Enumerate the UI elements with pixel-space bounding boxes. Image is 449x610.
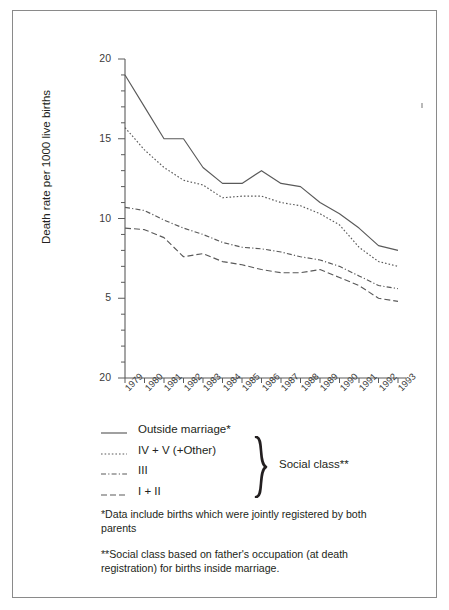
legend-item-label: III xyxy=(138,464,148,476)
chart-canvas xyxy=(13,11,438,411)
series-line xyxy=(125,128,398,267)
legend-line-swatch xyxy=(101,465,127,475)
brace-icon xyxy=(253,436,275,498)
legend-line-swatch xyxy=(101,445,127,455)
legend-item-label: Outside marriage* xyxy=(138,423,231,435)
y-tick-label: 5 xyxy=(81,291,111,303)
series-line xyxy=(125,75,398,250)
legend-line-swatch xyxy=(101,424,127,434)
legend-item-label: IV + V (+Other) xyxy=(138,444,216,456)
footnote-data-note: *Data include births which were jointly … xyxy=(101,507,401,535)
series-line xyxy=(125,228,398,301)
y-tick-label: 15 xyxy=(81,132,111,144)
series-line xyxy=(125,207,398,288)
legend-item-label: I + II xyxy=(138,485,161,497)
legend-group-label: Social class** xyxy=(279,458,349,470)
page-speck xyxy=(421,103,423,108)
chart-legend: Outside marriage*IV + V (+Other)IIII + I… xyxy=(101,419,431,501)
chart-series xyxy=(125,75,398,301)
plot-area: Death rate per 1000 live births 51015202… xyxy=(13,11,438,411)
legend-line-swatch xyxy=(101,486,127,496)
y-axis-bottom-label: 20 xyxy=(81,371,111,383)
y-tick-label: 20 xyxy=(81,52,111,64)
figure-frame: Death rate per 1000 live births 51015202… xyxy=(12,10,437,598)
chart-axes xyxy=(118,59,406,383)
footnote-social-class-note: **Social class based on father's occupat… xyxy=(101,547,401,575)
y-tick-label: 10 xyxy=(81,212,111,224)
